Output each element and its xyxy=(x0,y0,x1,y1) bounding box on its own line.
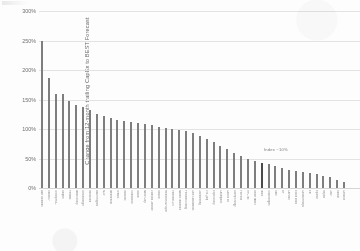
bar xyxy=(171,129,173,188)
x-axis-label: Patterson-UTI xyxy=(171,190,174,251)
x-axis-label: Weatherford xyxy=(109,190,112,251)
gridline-0 xyxy=(39,188,360,189)
bar xyxy=(116,120,118,188)
bar xyxy=(55,94,57,188)
x-axis-label: Expro Group xyxy=(212,190,215,251)
x-axis-label: Vallourec xyxy=(123,190,126,251)
x-axis-label: Dril-Quip xyxy=(205,190,208,251)
x-axis-label: RPC Inc xyxy=(246,190,249,251)
x-axis-label: Precision Drilling xyxy=(184,190,187,251)
x-axis-label: Transocean xyxy=(130,190,133,251)
x-axis-label: Schlumberger xyxy=(81,190,84,251)
bar xyxy=(219,146,221,188)
y-tick-label-50%: 50% xyxy=(12,156,36,162)
bar xyxy=(41,41,43,189)
bar xyxy=(178,130,180,188)
index-annotation: Index ~10% xyxy=(264,147,288,152)
x-axis-category-labels: Aker SolutionsSubsea 7TechnipFMCSaipemPe… xyxy=(39,190,351,250)
bar xyxy=(137,123,139,188)
x-axis-label: Liberty Energy xyxy=(233,190,236,251)
x-axis-label: Aker Solutions xyxy=(40,190,43,251)
plot-area xyxy=(39,11,348,188)
y-tick-label-300%: 300% xyxy=(12,8,36,14)
x-axis-label: ChampionX xyxy=(219,190,222,251)
x-axis-label: OMV xyxy=(329,190,332,251)
x-axis-label: Equinor xyxy=(315,190,318,251)
bar xyxy=(151,125,153,188)
bar xyxy=(96,114,98,188)
bar xyxy=(62,94,64,188)
bar xyxy=(281,168,283,188)
x-axis-label: Index xyxy=(260,190,263,251)
x-axis-label: Tenaris xyxy=(116,190,119,251)
bar xyxy=(68,101,70,188)
bar xyxy=(185,131,187,188)
bar xyxy=(226,149,228,188)
x-axis-label: Saipem xyxy=(61,190,64,251)
x-axis-label: BP xyxy=(281,190,284,251)
bar xyxy=(130,122,132,188)
y-tick-label-150%: 150% xyxy=(12,97,36,103)
bar xyxy=(295,171,297,188)
x-axis-label: Helmerich & Payne xyxy=(164,190,167,251)
y-tick-label-100%: 100% xyxy=(12,126,36,132)
x-axis-label: NOV xyxy=(102,190,105,251)
bar xyxy=(110,118,112,188)
x-axis-label: Shell xyxy=(274,190,277,251)
bar xyxy=(343,182,345,188)
bar xyxy=(288,170,290,188)
bar xyxy=(75,105,77,188)
y-tick-label-0%: 0% xyxy=(12,185,36,191)
scan-artifact xyxy=(2,1,28,5)
x-axis-label: Petrofac xyxy=(68,190,71,251)
x-axis-label: Valaris xyxy=(136,190,139,251)
bar xyxy=(199,136,201,188)
bar xyxy=(268,164,270,188)
bar xyxy=(48,78,50,188)
x-axis-label: Nabors Industries xyxy=(178,190,181,251)
bar xyxy=(103,116,105,188)
bar-series xyxy=(39,11,348,188)
x-axis-label: ConocoPhillips xyxy=(301,190,304,251)
x-axis-label: Wood Group xyxy=(75,190,78,251)
bar xyxy=(316,174,318,188)
y-tick-label-200%: 200% xyxy=(12,67,36,73)
x-axis-label: Core Laboratories xyxy=(191,190,194,251)
bar xyxy=(336,180,338,188)
x-axis-label: TechnipFMC xyxy=(54,190,57,251)
x-axis-label: Select Water xyxy=(253,190,256,251)
x-axis-label: Halliburton xyxy=(88,190,91,251)
x-axis-label: Seadrill xyxy=(157,190,160,251)
x-axis-label: TotalEnergies xyxy=(267,190,270,251)
x-axis-label: Diamond Offshore xyxy=(150,190,153,251)
bar xyxy=(302,172,304,188)
x-axis-label: ProPetro xyxy=(239,190,242,251)
bar xyxy=(254,161,256,188)
x-axis-label: Subsea 7 xyxy=(47,190,50,251)
bar xyxy=(247,159,249,189)
x-axis-label: Cactus Inc xyxy=(226,190,229,251)
bar xyxy=(123,121,125,188)
x-axis-label: Suncor xyxy=(336,190,339,251)
bar xyxy=(165,128,167,188)
bar xyxy=(158,127,160,188)
bar xyxy=(144,124,146,188)
bar xyxy=(309,173,311,188)
x-axis-label: Eni xyxy=(308,190,311,251)
bar xyxy=(329,177,331,188)
x-axis-label: Oceaneering xyxy=(198,190,201,251)
bar xyxy=(213,142,215,188)
bar xyxy=(233,153,235,188)
bar xyxy=(89,110,91,188)
y-tick-label-250%: 250% xyxy=(12,38,36,44)
x-axis-label: Cenovus xyxy=(342,190,345,251)
bar xyxy=(240,156,242,188)
bar xyxy=(192,133,194,188)
capex-change-bar-chart: 0%50%100%150%200%250%300% Change from 12… xyxy=(0,0,360,251)
x-axis-label: Chevron xyxy=(287,190,290,251)
x-axis-label: Repsol xyxy=(322,190,325,251)
bar xyxy=(261,163,263,188)
bar xyxy=(322,176,324,188)
x-axis-label: Exxon Mobil xyxy=(294,190,297,251)
bar xyxy=(206,139,208,188)
